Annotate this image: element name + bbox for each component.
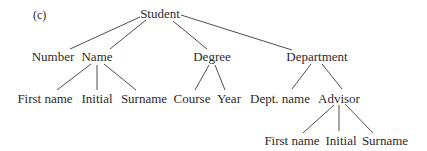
node-year: Year	[217, 92, 241, 106]
node-student: Student	[140, 7, 180, 21]
edge-name-surname	[104, 64, 136, 90]
node-advisor: Advisor	[318, 92, 360, 106]
node-degree: Degree	[193, 50, 231, 64]
edge-advisor-firstname	[303, 105, 334, 133]
edge-student-name	[110, 20, 146, 49]
node-department: Department	[286, 50, 347, 64]
edge-advisor-surname	[345, 104, 373, 133]
node-name-initial: Initial	[81, 92, 112, 106]
node-advisor-initial: Initial	[325, 134, 356, 148]
edge-name-firstname	[57, 64, 91, 90]
edge-department-deptname	[292, 64, 311, 89]
node-advisor-surname: Surname	[362, 134, 408, 148]
node-name-first-name: First name	[17, 92, 72, 106]
node-number: Number	[32, 50, 75, 64]
tree-diagram: (c) Student Number Name Degree Departmen…	[0, 0, 427, 151]
edge-degree-course	[195, 65, 209, 90]
node-advisor-first-name: First name	[264, 134, 319, 148]
node-dept-name: Dept. name	[250, 92, 310, 106]
edge-department-advisor	[322, 64, 342, 89]
tree-edges	[0, 0, 427, 151]
node-name-surname: Surname	[121, 92, 167, 106]
edge-student-degree	[173, 21, 207, 49]
figure-label: (c)	[33, 8, 46, 23]
node-name: Name	[81, 50, 112, 64]
node-course: Course	[174, 92, 211, 106]
edge-student-department	[181, 15, 292, 50]
edge-degree-year	[215, 65, 225, 90]
